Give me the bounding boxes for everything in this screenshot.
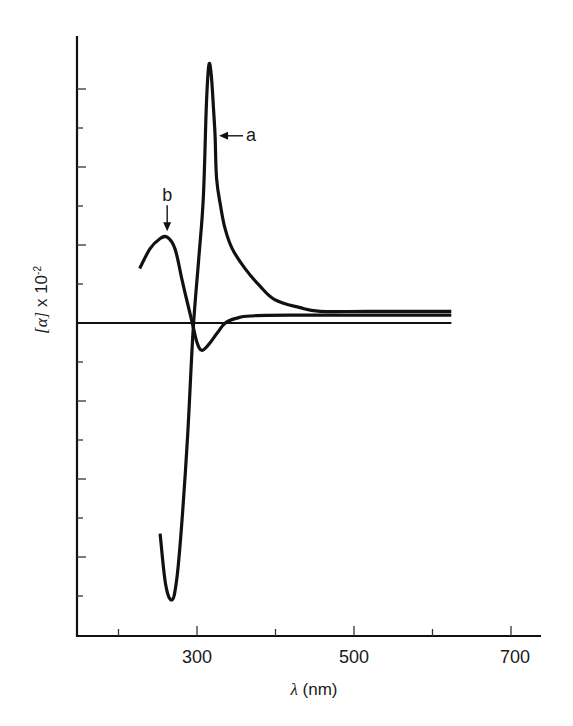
arrow-a-head xyxy=(219,132,228,140)
x-axis-title: λ (nm) xyxy=(290,680,337,700)
lambda-symbol: λ xyxy=(290,680,297,699)
series-label-a: a xyxy=(246,126,256,144)
curve-b xyxy=(140,236,452,350)
arrow-b-head xyxy=(163,222,171,231)
y-axis-multiplier: x 10 xyxy=(32,275,51,312)
x-tick-label-500: 500 xyxy=(339,647,369,668)
series-label-b: b xyxy=(162,186,172,204)
chart-canvas xyxy=(0,0,573,726)
x-tick-label-700: 700 xyxy=(500,647,530,668)
y-axis-exponent: -2 xyxy=(32,266,43,275)
x-axis-unit: (nm) xyxy=(303,680,338,699)
alpha-symbol: [α] xyxy=(32,312,51,334)
y-axis-title: [α] x 10-2 xyxy=(32,266,53,334)
x-tick-label-300: 300 xyxy=(182,647,212,668)
series-group xyxy=(140,63,452,600)
axes xyxy=(76,36,541,637)
curve-a xyxy=(160,63,451,600)
